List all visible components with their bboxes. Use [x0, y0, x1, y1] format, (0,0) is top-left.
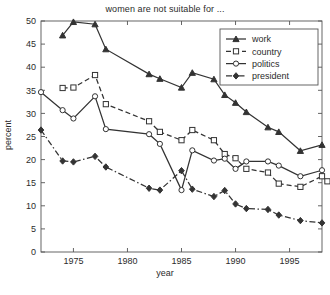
plot-area: 0510152025303540455019751980198519901995… — [0, 0, 330, 295]
data-point — [92, 153, 98, 159]
x-tick-label: 1990 — [226, 256, 246, 266]
y-tick-label: 45 — [26, 39, 36, 49]
y-tick-label: 35 — [26, 86, 36, 96]
data-point — [276, 181, 281, 186]
data-point — [265, 206, 271, 212]
data-point — [92, 94, 97, 99]
data-point — [298, 184, 303, 189]
data-point — [189, 70, 195, 76]
y-tick-label: 10 — [26, 201, 36, 211]
data-point — [157, 187, 163, 193]
data-point — [265, 159, 270, 164]
data-point — [298, 174, 303, 179]
data-point — [211, 193, 217, 199]
y-tick-label: 5 — [31, 224, 36, 234]
legend-marker-country — [233, 49, 238, 54]
y-tick-label: 25 — [26, 132, 36, 142]
data-point — [103, 164, 109, 170]
data-point — [179, 138, 184, 143]
data-point — [71, 85, 76, 90]
chart-figure: women are not suitable for ... year perc… — [0, 0, 330, 295]
y-tick-label: 30 — [26, 109, 36, 119]
data-point — [222, 156, 227, 161]
data-point — [244, 159, 249, 164]
data-point — [103, 127, 108, 132]
x-tick-label: 1980 — [117, 256, 137, 266]
data-point — [190, 148, 195, 153]
data-point — [319, 174, 324, 179]
data-point — [179, 187, 184, 192]
legend-label-politics: politics — [252, 59, 280, 69]
y-tick-label: 15 — [26, 178, 36, 188]
data-point — [190, 127, 195, 132]
x-tick-label: 1975 — [63, 256, 83, 266]
series-country — [60, 72, 330, 189]
data-point — [71, 159, 77, 165]
data-point — [325, 179, 330, 184]
data-point — [157, 141, 162, 146]
data-point — [146, 132, 151, 137]
series-line — [41, 130, 322, 223]
data-point — [244, 166, 249, 171]
data-point — [146, 71, 152, 77]
data-point — [103, 46, 109, 52]
chart-legend: workcountrypoliticspresident — [220, 29, 318, 85]
data-point — [146, 119, 151, 124]
data-point — [265, 170, 270, 175]
y-tick-label: 0 — [31, 247, 36, 257]
data-point — [319, 142, 325, 148]
y-tick-label: 20 — [26, 155, 36, 165]
data-point — [211, 158, 216, 163]
data-point — [60, 85, 65, 90]
legend-marker-politics — [233, 61, 238, 66]
data-point — [244, 205, 250, 211]
y-axis-label: percent — [3, 105, 13, 165]
data-point — [92, 72, 97, 77]
y-tick-label: 50 — [26, 16, 36, 26]
data-point — [146, 185, 152, 191]
data-point — [233, 156, 238, 161]
data-point — [211, 138, 216, 143]
data-point — [276, 212, 282, 218]
data-point — [103, 102, 108, 107]
legend-label-president: president — [252, 71, 290, 81]
data-point — [319, 220, 325, 226]
legend-label-country: country — [252, 47, 282, 57]
data-point — [233, 201, 239, 207]
data-point — [157, 76, 163, 82]
x-axis-label: year — [0, 268, 330, 278]
data-point — [157, 129, 162, 134]
data-point — [60, 108, 65, 113]
legend-label-work: work — [251, 34, 272, 44]
x-tick-label: 1985 — [171, 256, 191, 266]
chart-title: women are not suitable for ... — [0, 4, 330, 14]
data-point — [38, 90, 43, 95]
y-tick-label: 40 — [26, 62, 36, 72]
data-point — [319, 168, 324, 173]
data-point — [298, 217, 304, 223]
x-tick-label: 1995 — [280, 256, 300, 266]
data-point — [276, 163, 281, 168]
data-point — [71, 116, 76, 121]
data-point — [276, 129, 282, 135]
data-point — [233, 166, 238, 171]
